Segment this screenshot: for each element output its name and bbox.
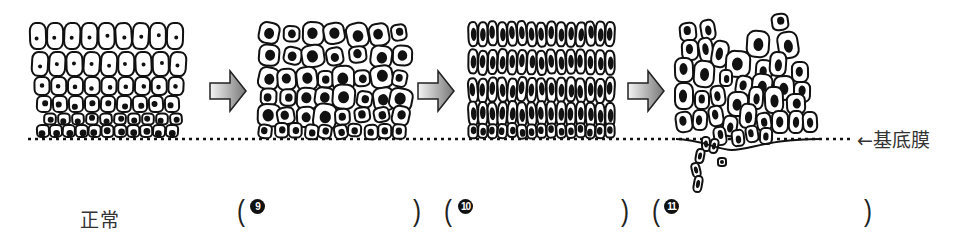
stage-11-epithelium (675, 13, 820, 193)
normal-epithelium (30, 23, 187, 138)
open-paren: ( (444, 196, 452, 226)
arrow-icon (418, 71, 454, 111)
open-paren: ( (237, 196, 245, 226)
stage-10-epithelium (467, 21, 615, 139)
open-paren: ( (652, 196, 660, 226)
close-paren: ) (413, 196, 421, 226)
arrow-icon (210, 71, 246, 111)
close-paren: ) (864, 196, 872, 226)
basement-membrane-label: ←基底膜 (857, 125, 930, 152)
close-paren: ) (621, 196, 629, 226)
stage-9-epithelium (257, 21, 414, 140)
blank-number-badge: 11 (664, 199, 679, 214)
blank-number-badge: 10 (458, 199, 473, 214)
stage-label-normal: 正常 (80, 205, 120, 232)
blank-number-badge: 9 (250, 199, 265, 214)
arrow-icon (628, 71, 664, 111)
epithelium-progression-diagram (0, 0, 965, 246)
